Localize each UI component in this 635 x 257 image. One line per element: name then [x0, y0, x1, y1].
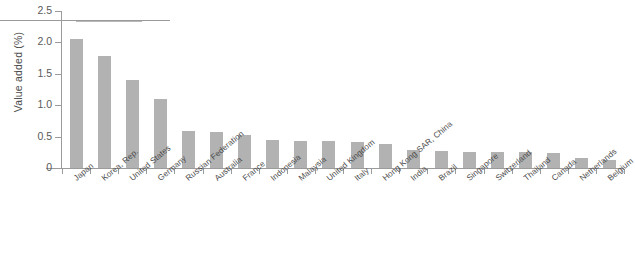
y-axis-tick — [55, 137, 61, 138]
y-axis-tick-label: 2.5 — [20, 4, 52, 16]
y-axis-tick — [55, 11, 61, 12]
y-axis-tick-label: 2.0 — [20, 35, 52, 47]
plot-area — [62, 11, 624, 168]
bar[interactable] — [435, 151, 448, 168]
bar[interactable] — [463, 152, 476, 168]
y-axis-tick-label: 0.5 — [20, 130, 52, 142]
y-axis-tick — [55, 42, 61, 43]
bar[interactable] — [379, 144, 392, 168]
y-axis-tick — [55, 168, 61, 169]
bar[interactable] — [98, 56, 111, 168]
y-axis-tick-label: 1.0 — [20, 98, 52, 110]
y-axis-tick — [55, 105, 61, 106]
y-axis-tick-label: 0 — [20, 161, 52, 173]
x-axis-tick — [371, 169, 372, 174]
bar[interactable] — [266, 140, 279, 168]
y-axis-tick-label: 1.5 — [20, 67, 52, 79]
y-axis-tick — [55, 74, 61, 75]
x-axis-tick — [62, 169, 63, 174]
bar[interactable] — [70, 39, 83, 168]
